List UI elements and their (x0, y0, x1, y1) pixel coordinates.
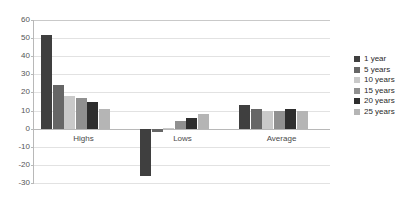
y-axis-tick-label: 30 (21, 70, 30, 78)
category-label: Highs (73, 135, 93, 143)
bar (140, 129, 151, 176)
legend-item[interactable]: 25 years (354, 107, 412, 118)
legend-item-label: 25 years (364, 108, 395, 116)
bar (76, 98, 87, 129)
bar (163, 128, 174, 129)
legend-swatch-icon (354, 109, 360, 115)
y-axis-tick-mark (31, 183, 34, 184)
bar (87, 102, 98, 129)
legend-item-label: 5 years (364, 66, 390, 74)
bar (285, 109, 296, 129)
legend-item[interactable]: 20 years (354, 96, 412, 107)
legend-item-label: 10 years (364, 76, 395, 84)
legend-swatch-icon (354, 67, 360, 73)
legend-swatch-icon (354, 77, 360, 83)
bar (297, 111, 308, 129)
bar (152, 129, 163, 133)
y-axis-tick-label: -20 (18, 161, 30, 169)
bar (239, 105, 250, 129)
bar (53, 85, 64, 128)
bar (175, 121, 186, 128)
bar (251, 109, 262, 129)
legend-item[interactable]: 15 years (354, 86, 412, 97)
legend-item[interactable]: 10 years (354, 75, 412, 86)
bar (262, 111, 273, 129)
bar-group (239, 20, 308, 183)
y-axis-tick-label: 40 (21, 52, 30, 60)
legend-swatch-icon (354, 56, 360, 62)
bar (64, 96, 75, 129)
legend-item-label: 1 year (364, 55, 386, 63)
y-axis-tick-label: 20 (21, 88, 30, 96)
legend-item[interactable]: 1 year (354, 54, 412, 65)
bar (186, 118, 197, 129)
legend-swatch-icon (354, 98, 360, 104)
y-axis-tick-label: -30 (18, 179, 30, 187)
legend-item-label: 15 years (364, 87, 395, 95)
y-axis-tick-label: 60 (21, 16, 30, 24)
category-label: Average (267, 135, 297, 143)
bar (274, 111, 285, 129)
y-axis-tick-label: 10 (21, 107, 30, 115)
bar-chart: 6050403020100-10-20-30 HighsLowsAverage … (0, 0, 412, 200)
legend: 1 year5 years10 years15 years20 years25 … (354, 54, 412, 117)
category-label: Lows (173, 135, 192, 143)
gridline (34, 183, 330, 184)
bar (41, 35, 52, 129)
bar-groups (34, 20, 330, 183)
plot-area: 6050403020100-10-20-30 HighsLowsAverage (33, 20, 330, 183)
legend-item-label: 20 years (364, 97, 395, 105)
y-axis-tick-label: 50 (21, 34, 30, 42)
bar-group (140, 20, 209, 183)
bar-group (41, 20, 110, 183)
legend-swatch-icon (354, 88, 360, 94)
bar (99, 109, 110, 129)
legend-item[interactable]: 5 years (354, 65, 412, 76)
bar (198, 114, 209, 128)
plot-wrapper: 6050403020100-10-20-30 HighsLowsAverage (0, 0, 340, 200)
y-axis-tick-label: -10 (18, 143, 30, 151)
y-axis-tick-label: 0 (26, 125, 30, 133)
